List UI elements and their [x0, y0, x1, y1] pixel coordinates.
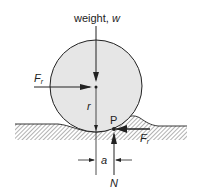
weight-label: weight, w — [73, 12, 121, 24]
rolling-resistance-diagram: weight, w Fr r P Fr a N — [0, 0, 198, 193]
contact-point-label: P — [110, 114, 117, 126]
dimension-right-arrowhead-icon — [115, 158, 121, 162]
contact-point — [112, 127, 116, 131]
applied-force-label: Fr — [34, 72, 44, 85]
offset-label: a — [101, 154, 107, 166]
normal-force-label: N — [110, 177, 118, 189]
dimension-left-arrowhead-icon — [89, 158, 95, 162]
